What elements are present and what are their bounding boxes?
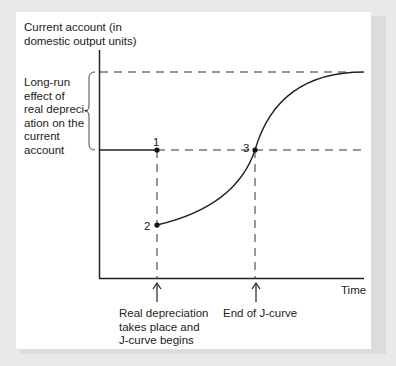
x-axis-label: Time <box>341 284 366 298</box>
annotation-end-jcurve: End of J-curve <box>223 307 297 321</box>
y-axis-label: Current account (in domestic output unit… <box>24 21 137 48</box>
point-2 <box>154 222 159 227</box>
point-2-label: 2 <box>144 220 150 234</box>
brace-label: Long-run effect of real depreci- ation o… <box>24 76 88 157</box>
point-3-label: 3 <box>243 142 249 156</box>
point-1-label: 1 <box>153 136 159 150</box>
j-curve-path <box>157 72 364 225</box>
annotation-depreciation: Real depreciation takes place and J-curv… <box>119 307 209 348</box>
point-3 <box>252 147 257 152</box>
